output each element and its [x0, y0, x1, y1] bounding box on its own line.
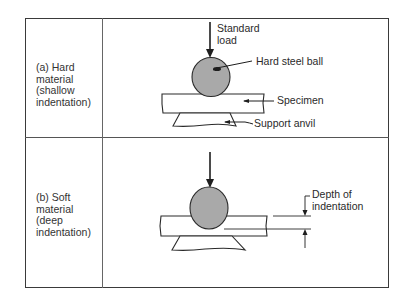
indentation-diagram	[0, 0, 409, 302]
load-arrow-icon	[206, 22, 214, 58]
panel-b-drawing	[160, 152, 311, 250]
standard-load-label: Standard load	[217, 23, 260, 46]
anvil-a	[173, 113, 236, 126]
specimen-label: Specimen	[277, 95, 324, 107]
depth-dimension-icon	[303, 196, 311, 248]
steel-ball-a	[192, 58, 230, 97]
support-anvil-label: Support anvil	[254, 118, 315, 130]
steel-ball-b	[190, 187, 228, 229]
hard-steel-ball-label: Hard steel ball	[256, 56, 323, 68]
anvil-b	[172, 236, 245, 250]
load-arrow-icon	[206, 152, 214, 188]
depth-of-indentation-label: Depth of indentation	[312, 189, 363, 212]
